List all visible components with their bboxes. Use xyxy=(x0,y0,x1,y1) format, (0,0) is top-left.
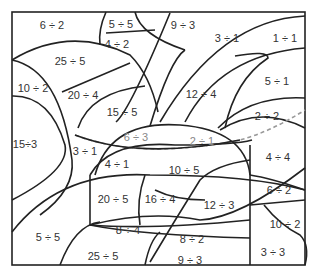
region-label-r4: 4 ÷ 2 xyxy=(105,39,129,50)
region-label-r9: 20 ÷ 4 xyxy=(68,90,99,101)
region-label-r15: 6 ÷ 3 xyxy=(124,132,148,143)
region-label-r24: 12 ÷ 3 xyxy=(204,200,235,211)
region-label-r22: 16 ÷ 4 xyxy=(145,194,176,205)
region-label-r26: 8 ÷ 4 xyxy=(116,225,140,236)
region-label-r6: 1 ÷ 1 xyxy=(273,33,297,44)
region-label-r7: 25 ÷ 5 xyxy=(55,56,86,67)
region-label-r2: 5 ÷ 5 xyxy=(109,19,133,30)
region-label-r28: 8 ÷ 2 xyxy=(180,234,204,245)
region-label-r8: 10 ÷ 2 xyxy=(18,83,49,94)
region-label-r17: 3 ÷ 1 xyxy=(73,146,97,157)
region-label-r20: 4 ÷ 4 xyxy=(266,152,290,163)
region-label-r23: 6 ÷ 2 xyxy=(267,185,291,196)
region-label-r11: 5 ÷ 1 xyxy=(265,76,289,87)
region-label-r30: 25 ÷ 5 xyxy=(88,251,119,262)
region-label-r3: 9 ÷ 3 xyxy=(171,20,195,31)
region-label-r14: 15÷3 xyxy=(13,139,37,150)
region-label-r16: 2 ÷ 1 xyxy=(190,136,214,147)
region-label-r25: 10 ÷ 2 xyxy=(270,219,301,230)
region-label-r5: 3 ÷ 1 xyxy=(215,33,239,44)
region-label-r27: 5 ÷ 5 xyxy=(36,232,60,243)
region-label-r21: 20 ÷ 5 xyxy=(98,194,129,205)
region-label-r19: 10 ÷ 5 xyxy=(169,165,200,176)
region-label-r10: 12 ÷ 4 xyxy=(186,89,217,100)
region-label-r12: 15 ÷ 5 xyxy=(107,107,138,118)
region-label-r31: 9 ÷ 3 xyxy=(178,255,202,266)
region-label-r1: 6 ÷ 2 xyxy=(40,20,64,31)
region-label-r29: 3 ÷ 3 xyxy=(261,247,285,258)
region-label-r18: 4 ÷ 1 xyxy=(105,159,129,170)
region-label-r13: 2 ÷ 2 xyxy=(255,111,279,122)
